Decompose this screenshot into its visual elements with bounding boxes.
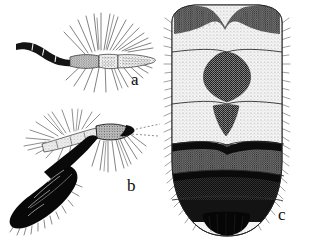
figure-c-label: c bbox=[278, 206, 286, 223]
figure-a-terminal-segment bbox=[118, 55, 155, 68]
figure-b-terminal-lobe bbox=[10, 166, 78, 229]
figure-a-basal-dark-segments bbox=[16, 42, 72, 66]
figure-c-panel: c bbox=[155, 0, 316, 240]
figure-a-mid-segment bbox=[99, 54, 118, 68]
figure-b-drawing bbox=[0, 100, 170, 240]
figure-b-fan-hairs bbox=[92, 134, 146, 172]
figure-a-label: a bbox=[131, 71, 139, 88]
figure-plate: a bbox=[0, 0, 316, 240]
figure-c-drawing bbox=[155, 0, 316, 240]
figure-a-panel: a bbox=[0, 0, 170, 105]
figure-b-label: b bbox=[127, 177, 136, 194]
figure-b-panel: b bbox=[0, 100, 170, 240]
figure-a-bristles-upper bbox=[64, 13, 153, 54]
figure-a-drawing bbox=[0, 0, 170, 105]
figure-a-swollen-segment bbox=[70, 55, 99, 69]
